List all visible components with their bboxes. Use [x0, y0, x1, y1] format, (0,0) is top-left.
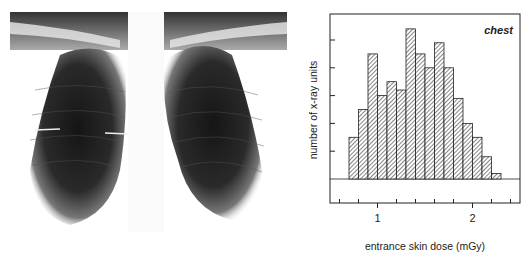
histogram-bar: [444, 68, 454, 179]
y-ticks: [330, 40, 335, 151]
histogram-bars: [349, 29, 501, 179]
mediastinum: [128, 12, 164, 232]
histogram-bar: [482, 157, 492, 179]
histogram-bar: [406, 29, 416, 179]
histogram-bar: [416, 54, 426, 179]
right-lung: [164, 46, 262, 220]
chest-annotation: chest: [484, 24, 514, 36]
histogram-bar: [454, 98, 464, 179]
y-axis-label: number of x-ray units: [307, 61, 319, 160]
histogram-bar: [368, 54, 378, 179]
histogram-bar: [359, 110, 369, 180]
x-axis-label: entrance skin dose (mGy): [365, 240, 485, 252]
x-tick-label: 1: [374, 212, 380, 224]
dose-histogram: 12 chest entrance skin dose (mGy) number…: [290, 0, 530, 267]
histogram-bar: [425, 68, 435, 179]
histogram-bar: [492, 173, 502, 179]
histogram-bar: [435, 43, 445, 179]
histogram-bar: [349, 137, 359, 179]
chest-xray-image: [0, 0, 290, 267]
histogram-bar: [387, 82, 397, 179]
x-tick-label: 2: [469, 212, 475, 224]
histogram-bar: [473, 137, 483, 179]
histogram-bar: [463, 123, 473, 179]
histogram-bar: [378, 96, 388, 179]
left-lung: [30, 49, 126, 225]
histogram-bar: [397, 90, 407, 179]
